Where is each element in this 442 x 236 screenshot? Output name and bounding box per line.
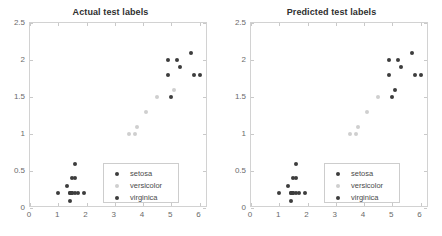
y-tick: [251, 171, 254, 172]
data-point-setosa: [297, 191, 301, 195]
data-point-versicolor: [127, 132, 131, 136]
data-point-setosa: [289, 199, 293, 203]
legend-dot-virginica: [336, 196, 340, 200]
legend-marker-icon: [325, 184, 351, 188]
x-tick-top: [421, 23, 422, 26]
data-point-versicolor: [133, 132, 137, 136]
y-tick-label: 0.5: [14, 166, 25, 175]
x-tick-top: [87, 23, 88, 26]
data-point-virginica: [169, 95, 173, 99]
x-tick-label: 6: [196, 210, 200, 219]
y-tick-right: [203, 60, 206, 61]
legend-label: virginica: [130, 193, 158, 202]
x-tick-top: [143, 23, 144, 26]
data-point-virginica: [393, 88, 397, 92]
y-tick: [30, 97, 33, 98]
y-tick: [251, 60, 254, 61]
data-point-setosa: [56, 191, 60, 195]
data-point-setosa: [73, 176, 77, 180]
x-tick-label: 4: [140, 210, 144, 219]
y-tick-label: 1: [242, 129, 246, 138]
y-tick-label: 0: [21, 203, 25, 212]
legend-dot-versicolor: [115, 184, 119, 188]
data-point-versicolor: [376, 95, 380, 99]
x-tick: [30, 203, 31, 206]
figure-scatter-comparison: Actual test labels 00.511.522.5 setosave…: [0, 0, 442, 236]
legend-item-virginica[interactable]: virginica: [104, 191, 178, 204]
x-tick: [200, 203, 201, 206]
data-point-virginica: [390, 95, 394, 99]
panel-predicted-test-labels: Predicted test labels 00.511.522.5 setos…: [221, 0, 442, 236]
data-point-virginica: [387, 58, 391, 62]
legend-label: setosa: [130, 169, 152, 178]
y-tick: [30, 60, 33, 61]
page-title-predicted: Predicted test labels: [221, 7, 442, 17]
x-tick-top: [115, 23, 116, 26]
x-tick-label: 6: [417, 210, 421, 219]
panel-actual-test-labels: Actual test labels 00.511.522.5 setosave…: [0, 0, 221, 236]
data-point-setosa: [303, 191, 307, 195]
legend-dot-setosa: [336, 172, 340, 176]
data-point-setosa: [65, 184, 69, 188]
y-axis-labels-actual: 00.511.522.5: [0, 0, 25, 236]
legend-predicted[interactable]: setosaversicolorvirginica: [324, 163, 400, 203]
y-tick-right: [424, 134, 427, 135]
y-tick-label: 0.5: [235, 166, 246, 175]
data-point-virginica: [419, 73, 423, 77]
data-point-virginica: [413, 73, 417, 77]
x-tick-label: 2: [83, 210, 87, 219]
x-tick-label: 5: [389, 210, 393, 219]
data-point-setosa: [76, 191, 80, 195]
legend-marker-icon: [104, 196, 130, 200]
y-tick-right: [203, 171, 206, 172]
legend-marker-icon: [325, 172, 351, 176]
x-tick-top: [58, 23, 59, 26]
data-point-virginica: [192, 73, 196, 77]
y-tick-right: [203, 134, 206, 135]
data-point-virginica: [410, 51, 414, 55]
y-tick-right: [424, 60, 427, 61]
y-tick-right: [203, 208, 206, 209]
data-point-versicolor: [356, 125, 360, 129]
data-point-versicolor: [135, 125, 139, 129]
y-tick-label: 1.5: [14, 92, 25, 101]
x-tick-top: [364, 23, 365, 26]
data-point-versicolor: [144, 110, 148, 114]
y-tick: [251, 208, 254, 209]
legend-actual[interactable]: setosaversicolorvirginica: [103, 163, 179, 203]
y-tick-label: 2: [21, 55, 25, 64]
data-point-versicolor: [155, 95, 159, 99]
legend-marker-icon: [104, 172, 130, 176]
x-tick-top: [279, 23, 280, 26]
data-point-setosa: [286, 184, 290, 188]
x-tick-label: 1: [276, 210, 280, 219]
x-tick-top: [308, 23, 309, 26]
data-point-versicolor: [172, 88, 176, 92]
y-tick: [30, 134, 33, 135]
data-point-versicolor: [348, 132, 352, 136]
y-tick-right: [203, 97, 206, 98]
x-tick-label: 5: [168, 210, 172, 219]
y-tick-label: 1.5: [235, 92, 246, 101]
legend-marker-icon: [325, 196, 351, 200]
y-tick: [30, 171, 33, 172]
legend-dot-versicolor: [336, 184, 340, 188]
data-point-setosa: [68, 199, 72, 203]
x-tick-label: 3: [333, 210, 337, 219]
x-tick-top: [171, 23, 172, 26]
y-tick-label: 2: [242, 55, 246, 64]
x-tick: [421, 203, 422, 206]
y-axis-labels-predicted: 00.511.522.5: [221, 0, 246, 236]
x-tick-label: 2: [304, 210, 308, 219]
x-tick: [58, 203, 59, 206]
y-tick-label: 2.5: [235, 18, 246, 27]
x-tick-label: 0: [248, 210, 252, 219]
legend-label: versicolor: [351, 181, 383, 190]
page-title: Actual test labels: [0, 7, 221, 17]
data-point-setosa: [294, 176, 298, 180]
y-tick: [30, 23, 33, 24]
y-tick: [251, 134, 254, 135]
data-point-virginica: [166, 73, 170, 77]
data-point-virginica: [189, 51, 193, 55]
legend-item-virginica[interactable]: virginica: [325, 191, 399, 204]
